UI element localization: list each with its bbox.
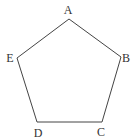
vertex-label-b: B	[122, 51, 130, 65]
vertex-label-d: D	[34, 126, 43, 140]
pentagon-diagram: A B C D E	[0, 0, 131, 140]
vertex-label-c: C	[97, 125, 105, 139]
vertex-label-e: E	[6, 51, 13, 65]
vertex-label-a: A	[64, 3, 73, 17]
pentagon-ABCDE	[17, 19, 121, 122]
